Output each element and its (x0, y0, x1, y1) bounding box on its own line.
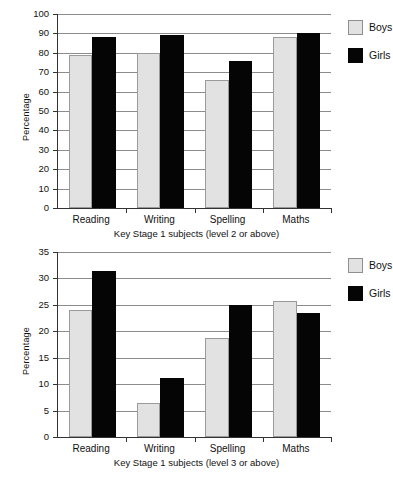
x-axis-category-spelling: Spelling (194, 214, 262, 225)
y-axis-tick-label: 100 (33, 9, 49, 19)
bar-maths-boys (273, 301, 297, 437)
y-axis-tick (53, 331, 58, 332)
y-axis-tick (53, 208, 58, 209)
y-axis-tick-label: 30 (38, 273, 49, 283)
x-axis-separator-tick (331, 437, 332, 442)
x-axis-category-reading: Reading (57, 214, 125, 225)
plot-area-bottom (57, 252, 331, 438)
x-axis-separator-tick (263, 437, 264, 442)
chart-level-3: Percentage Key Stage 1 subjects (level 3… (0, 240, 393, 482)
y-axis-tick (53, 14, 58, 15)
legend-label-boys: Boys (369, 22, 392, 33)
bar-maths-girls (297, 313, 321, 437)
gridline (58, 33, 331, 34)
x-axis-separator-tick (195, 208, 196, 213)
bar-maths-boys (273, 37, 297, 208)
x-axis-label-bottom: Key Stage 1 subjects (level 3 or above) (0, 457, 393, 468)
y-axis-tick (53, 150, 58, 151)
y-axis-label-bottom: Percentage (21, 326, 31, 374)
y-axis-tick-label: 25 (38, 300, 49, 310)
legend-label-girls: Girls (369, 288, 391, 299)
chart-page: Percentage Key Stage 1 subjects (level 2… (0, 0, 393, 482)
y-axis-tick-label: 20 (38, 164, 49, 174)
bar-reading-girls (92, 37, 116, 208)
bar-maths-girls (297, 33, 321, 208)
chart-level-2: Percentage Key Stage 1 subjects (level 2… (0, 0, 393, 240)
x-axis-category-maths: Maths (262, 214, 330, 225)
legend-item-boys[interactable]: Boys (348, 20, 392, 35)
bar-reading-boys (69, 310, 93, 437)
x-axis-category-reading: Reading (57, 443, 125, 454)
y-axis-tick (53, 437, 58, 438)
bar-spelling-boys (205, 338, 229, 437)
x-axis-separator-tick (195, 437, 196, 442)
x-axis-separator-tick (331, 208, 332, 213)
x-axis-separator-tick (126, 437, 127, 442)
x-axis-separator-tick (263, 208, 264, 213)
x-axis-category-writing: Writing (125, 214, 193, 225)
bar-spelling-girls (229, 61, 253, 208)
legend-item-girls[interactable]: Girls (348, 48, 391, 63)
y-axis-tick (53, 111, 58, 112)
y-axis-tick-label: 70 (38, 67, 49, 77)
x-axis-category-maths: Maths (262, 443, 330, 454)
y-axis-tick-label: 90 (38, 28, 49, 38)
girls-swatch-icon (348, 48, 363, 63)
y-axis-tick (53, 72, 58, 73)
y-axis-tick-label: 5 (44, 406, 49, 416)
girls-swatch-icon (348, 286, 363, 301)
y-axis-tick-label: 15 (38, 353, 49, 363)
bar-reading-girls (92, 271, 116, 438)
bar-writing-boys (137, 403, 161, 437)
legend-label-boys: Boys (369, 260, 392, 271)
y-axis-tick (53, 278, 58, 279)
y-axis-tick-label: 20 (38, 326, 49, 336)
y-axis-tick (53, 358, 58, 359)
bar-spelling-boys (205, 80, 229, 208)
y-axis-tick-label: 40 (38, 125, 49, 135)
y-axis-tick (53, 33, 58, 34)
y-axis-tick-label: 10 (38, 379, 49, 389)
y-axis-tick-label: 0 (44, 432, 49, 442)
legend-item-girls[interactable]: Girls (348, 286, 391, 301)
y-axis-tick (53, 411, 58, 412)
y-axis-tick (53, 169, 58, 170)
x-axis-label-top: Key Stage 1 subjects (level 2 or above) (0, 228, 393, 239)
x-axis-category-writing: Writing (125, 443, 193, 454)
y-axis-tick (53, 305, 58, 306)
bar-spelling-girls (229, 305, 253, 437)
y-axis-tick-label: 35 (38, 247, 49, 257)
legend-item-boys[interactable]: Boys (348, 258, 392, 273)
y-axis-tick-label: 60 (38, 87, 49, 97)
gridline (58, 252, 331, 253)
boys-swatch-icon (348, 258, 363, 273)
y-axis-tick (53, 92, 58, 93)
legend-label-girls: Girls (369, 50, 391, 61)
bar-writing-boys (137, 53, 161, 208)
x-axis-category-spelling: Spelling (194, 443, 262, 454)
y-axis-tick-label: 30 (38, 145, 49, 155)
x-axis-separator-tick (126, 208, 127, 213)
gridline (58, 14, 331, 15)
bar-writing-girls (160, 35, 184, 208)
y-axis-tick (53, 252, 58, 253)
y-axis-label-top: Percentage (21, 93, 31, 141)
y-axis-tick (53, 189, 58, 190)
bar-reading-boys (69, 55, 93, 208)
y-axis-tick-label: 50 (38, 106, 49, 116)
y-axis-tick (53, 53, 58, 54)
bar-writing-girls (160, 378, 184, 437)
plot-area-top (57, 14, 331, 209)
boys-swatch-icon (348, 20, 363, 35)
y-axis-tick (53, 384, 58, 385)
y-axis-tick-label: 10 (38, 184, 49, 194)
y-axis-tick-label: 80 (38, 48, 49, 58)
y-axis-tick-label: 0 (44, 203, 49, 213)
y-axis-tick (53, 130, 58, 131)
